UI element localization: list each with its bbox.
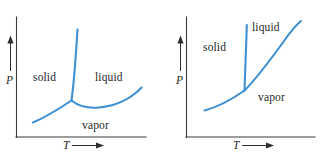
right-panel-drawing <box>163 0 326 159</box>
right-y-axis-label: P <box>176 75 183 87</box>
left-vaporization-curve <box>72 88 142 108</box>
right-region-label-vapor: vapor <box>258 92 285 104</box>
phase-diagram-figure: solid liquid vapor P T solid <box>0 0 326 159</box>
left-panel-drawing <box>0 0 163 159</box>
phase-diagram-normal-substance: solid liquid vapor P T <box>0 0 163 159</box>
right-p-up-arrow-icon <box>177 36 183 72</box>
right-fusion-curve <box>245 25 247 91</box>
left-y-axis-label: P <box>6 75 13 87</box>
phase-diagram-water-like-substance: solid liquid vapor P T <box>163 0 326 159</box>
left-t-right-arrow-icon <box>72 143 104 149</box>
left-region-label-vapor: vapor <box>82 120 109 132</box>
left-region-label-solid: solid <box>33 72 56 84</box>
left-x-axis-label: T <box>63 140 69 152</box>
left-p-up-arrow-icon <box>7 36 13 72</box>
left-region-label-liquid: liquid <box>95 72 123 84</box>
right-region-label-liquid: liquid <box>252 22 280 34</box>
right-t-right-arrow-icon <box>242 143 274 149</box>
right-region-label-solid: solid <box>203 42 226 54</box>
left-fusion-curve <box>72 30 78 101</box>
left-sublimation-curve <box>33 101 72 123</box>
right-sublimation-curve <box>205 91 245 111</box>
right-x-axis-label: T <box>233 140 239 152</box>
